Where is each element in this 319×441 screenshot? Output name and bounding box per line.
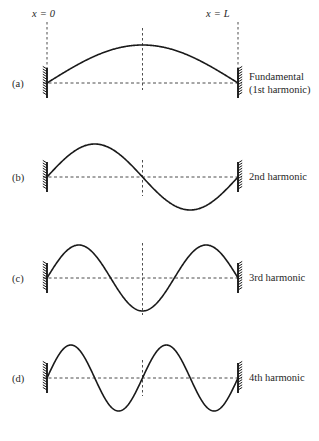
- caption-fundamental: Fundamental(1st harmonic): [249, 71, 311, 96]
- wall-hatch-left: [43, 361, 47, 364]
- panel-letter-d: (d): [12, 373, 24, 384]
- wall-hatch-right: [238, 261, 242, 264]
- standing-wave-figure: x = 0 x = L (a) (b) (c) (d) Fundamental(…: [0, 0, 319, 441]
- caption-line: 3rd harmonic: [249, 272, 305, 285]
- caption-4th-harmonic: 4th harmonic: [249, 372, 305, 385]
- wave-panel-c: [43, 243, 242, 315]
- panel-letter-b: (b): [12, 172, 24, 183]
- caption-2nd-harmonic: 2nd harmonic: [249, 171, 307, 184]
- wall-hatch-left: [43, 66, 47, 69]
- caption-3rd-harmonic: 3rd harmonic: [249, 272, 305, 285]
- caption-line: Fundamental: [249, 71, 311, 84]
- caption-line: (1st harmonic): [249, 84, 311, 97]
- wall-hatch-left: [43, 160, 47, 163]
- panel-letter-a: (a): [12, 78, 24, 89]
- panel-letter-c: (c): [12, 273, 24, 284]
- wave-panel-d: [43, 345, 242, 411]
- wall-hatch-right: [238, 66, 242, 69]
- caption-line: 2nd harmonic: [249, 171, 307, 184]
- wall-hatch-right: [238, 361, 242, 364]
- wall-hatch-right: [238, 160, 242, 163]
- wall-hatch-left: [43, 261, 47, 264]
- axis-label-x-equals-L: x = L: [206, 8, 230, 19]
- axis-label-x-equals-0: x = 0: [32, 8, 55, 19]
- caption-line: 4th harmonic: [249, 372, 305, 385]
- wave-panel-a: [43, 28, 242, 98]
- wave-panel-b: [43, 144, 242, 210]
